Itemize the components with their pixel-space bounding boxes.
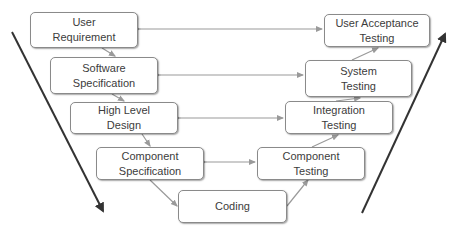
box-coding: Coding	[178, 190, 287, 223]
flow-ur-ss	[102, 48, 115, 56]
box-integration-testing: Integration Testing	[285, 101, 393, 134]
flow-ss-hld	[112, 94, 124, 101]
box-user-requirement: User Requirement	[30, 12, 138, 48]
v-model-diagram: User Requirement Software Specification …	[0, 0, 461, 236]
box-high-level-design: High Level Design	[70, 102, 178, 134]
box-component-testing: Component Testing	[257, 147, 365, 180]
flow-coding-ct	[287, 180, 308, 206]
box-software-specification: Software Specification	[50, 57, 158, 94]
label-high-level-design: High Level Design	[98, 103, 150, 133]
box-system-testing: System Testing	[305, 60, 412, 97]
label-software-specification: Software Specification	[73, 61, 135, 91]
label-coding: Coding	[215, 199, 250, 214]
box-component-specification: Component Specification	[96, 147, 204, 180]
flow-ct-it	[312, 135, 338, 147]
flow-st-uat	[352, 48, 378, 60]
label-system-testing: System Testing	[340, 64, 377, 94]
label-user-acceptance-testing: User Acceptance Testing	[335, 16, 418, 46]
label-component-testing: Component Testing	[283, 149, 340, 179]
box-user-acceptance-testing: User Acceptance Testing	[324, 14, 430, 47]
label-integration-testing: Integration Testing	[313, 103, 365, 133]
label-user-requirement: User Requirement	[53, 15, 116, 45]
label-component-specification: Component Specification	[119, 149, 181, 179]
flow-cs-coding	[150, 180, 177, 206]
flow-hld-cs	[142, 134, 150, 146]
